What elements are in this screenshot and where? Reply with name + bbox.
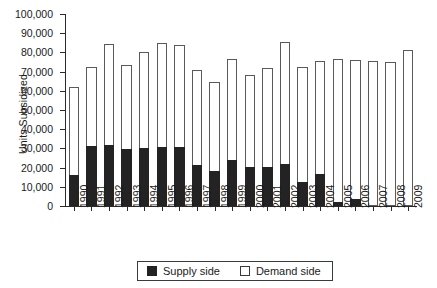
x-axis-label-1990: 1990 [78, 185, 90, 208]
x-axis-label-1992: 1992 [113, 185, 125, 208]
y-axis-tick [60, 33, 65, 34]
legend-swatch-demand-side [240, 266, 250, 276]
x-axis-label-1993: 1993 [131, 185, 143, 208]
bar-1996 [174, 45, 184, 206]
x-axis-label-2001: 2001 [271, 185, 283, 208]
y-axis-tick [60, 187, 65, 188]
y-axis-tick [60, 72, 65, 73]
bar-1994 [139, 52, 149, 206]
x-axis-label-1991: 1991 [95, 185, 107, 208]
y-axis-tick-label: 50,000 [21, 105, 53, 115]
x-axis-label-2000: 2000 [254, 185, 266, 208]
x-axis-label-2005: 2005 [342, 185, 354, 208]
x-axis-label-1996: 1996 [183, 185, 195, 208]
x-axis-label-2006: 2006 [359, 185, 371, 208]
y-axis-tick [60, 14, 65, 15]
y-axis-tick [60, 129, 65, 130]
y-axis-tick-label: 0 [47, 201, 53, 211]
chart-figure: Units Subsidized 100,00090,00080,00070,0… [0, 0, 437, 288]
plot-area [65, 14, 417, 206]
x-axis-label-1994: 1994 [148, 185, 160, 208]
y-axis-tick-label: 20,000 [21, 163, 53, 173]
chart-legend: Supply side Demand side [137, 261, 333, 281]
x-axis-label-2003: 2003 [307, 185, 319, 208]
x-axis-label-2007: 2007 [377, 185, 389, 208]
y-axis-tick-labels: 100,00090,00080,00070,00060,00050,00040,… [0, 14, 60, 206]
x-axis-label-1998: 1998 [219, 185, 231, 208]
y-axis-tick-label: 90,000 [21, 28, 53, 38]
y-axis-tick-label: 60,000 [21, 86, 53, 96]
x-axis-label-2002: 2002 [289, 185, 301, 208]
legend-swatch-supply-side [147, 266, 157, 276]
bar-2009 [403, 50, 413, 207]
bar-1995 [157, 43, 167, 206]
x-axis-label-2009: 2009 [412, 185, 424, 208]
y-axis-tick-label: 10,000 [21, 182, 53, 192]
x-axis-label-1997: 1997 [201, 185, 213, 208]
bar-segment-demand-side [403, 50, 413, 207]
y-axis-tick [60, 110, 65, 111]
y-axis-tick [60, 52, 65, 53]
legend-item-demand-side: Demand side [240, 265, 321, 277]
y-axis-tick [60, 168, 65, 169]
y-axis-tick [60, 91, 65, 92]
x-axis-tick-labels: 1990199119921993199419951996199719981999… [65, 201, 417, 261]
y-axis-tick-label: 30,000 [21, 143, 53, 153]
legend-label-supply-side: Supply side [163, 265, 220, 277]
x-axis-label-1995: 1995 [166, 185, 178, 208]
y-axis-tick-label: 40,000 [21, 124, 53, 134]
x-axis-label-2004: 2004 [324, 185, 336, 208]
y-axis-tick-label: 100,000 [15, 9, 53, 19]
x-axis-label-2008: 2008 [395, 185, 407, 208]
y-axis-tick-label: 70,000 [21, 67, 53, 77]
bar-2002 [280, 42, 290, 206]
legend-item-supply-side: Supply side [147, 265, 220, 277]
bar-1992 [104, 44, 114, 206]
x-axis-label-1999: 1999 [236, 185, 248, 208]
y-axis-tick-label: 80,000 [21, 47, 53, 57]
legend-label-demand-side: Demand side [256, 265, 321, 277]
y-axis-line [65, 14, 66, 206]
y-axis-tick [60, 148, 65, 149]
